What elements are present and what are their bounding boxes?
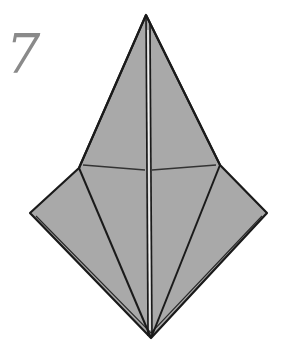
origami-fold-diagram — [0, 0, 289, 349]
